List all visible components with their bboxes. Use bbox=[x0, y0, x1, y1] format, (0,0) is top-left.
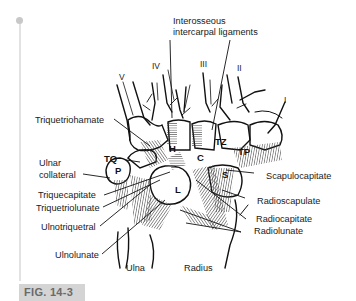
label-triquecapitate: Triquecapitate bbox=[38, 190, 96, 200]
label-ulnotriquetral: Ulnotriquetral bbox=[41, 222, 96, 232]
label-ulnar-collateral-line1: Ulnar bbox=[39, 158, 61, 168]
label-radiocapitate: Radiocapitate bbox=[256, 214, 312, 224]
ray-label-III: III bbox=[200, 60, 207, 69]
label-radioscapulate: Radioscapulate bbox=[257, 196, 320, 206]
bone-label-P: P bbox=[115, 166, 121, 176]
label-interosseous-line2: intercarpal ligaments bbox=[173, 27, 258, 37]
ray-label-IV: IV bbox=[152, 62, 160, 71]
bone-label-H: H bbox=[169, 144, 176, 154]
label-ulnar-collateral-line2: collateral bbox=[39, 170, 76, 180]
bone-label-C: C bbox=[197, 153, 204, 163]
figure-number-label: FIG. 14-3 bbox=[19, 284, 85, 301]
bone-label-TQ: TQ bbox=[104, 154, 117, 164]
bone-label-TP: TP bbox=[238, 147, 250, 157]
ray-label-I: I bbox=[284, 96, 286, 105]
label-ulnolunate: Ulnolunate bbox=[55, 250, 99, 260]
wrist-ligament-illustration bbox=[0, 0, 356, 301]
label-triquetriohamate: Triquetriohamate bbox=[35, 115, 104, 125]
label-interosseous-line1: Interosseous bbox=[173, 16, 226, 26]
label-scapulocapitate: Scapulocapitate bbox=[266, 171, 331, 181]
bone-label-L: L bbox=[175, 185, 181, 195]
bone-label-S: S bbox=[222, 170, 228, 180]
bone-label-TZ: TZ bbox=[215, 137, 227, 147]
label-radius: Radius bbox=[184, 263, 213, 273]
ray-label-V: V bbox=[119, 73, 125, 82]
label-ulna: Ulna bbox=[126, 263, 145, 273]
label-radiolunate: Radiolunate bbox=[254, 226, 303, 236]
ray-label-II: II bbox=[237, 64, 242, 73]
label-triquetriolunate: Triquetriolunate bbox=[36, 203, 100, 213]
